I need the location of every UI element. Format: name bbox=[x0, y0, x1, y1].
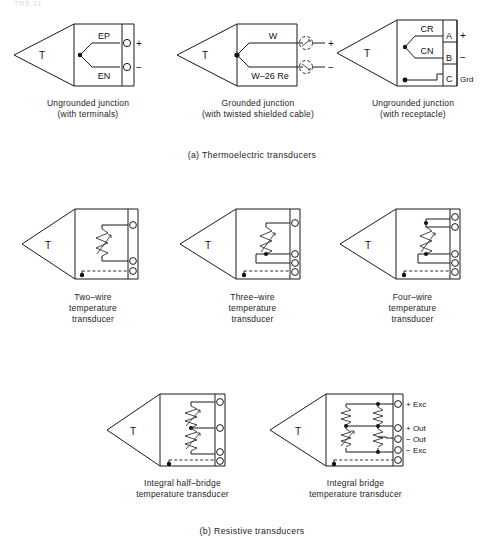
terminal-exc-positive[interactable] bbox=[395, 401, 402, 408]
section-caption-a: (a) Thermoelectric transducers bbox=[0, 150, 504, 160]
sensor-body-label: T bbox=[39, 50, 45, 61]
section-caption-b: (b) Resistive transducers bbox=[0, 526, 504, 536]
terminal-1[interactable] bbox=[130, 222, 137, 229]
top-tap-dot bbox=[424, 221, 428, 225]
terminal-label-exc-positive: + Exc bbox=[406, 400, 426, 409]
terminal-1[interactable] bbox=[452, 214, 459, 221]
terminal-2[interactable] bbox=[217, 425, 224, 432]
terminal-exc-negative[interactable] bbox=[395, 447, 402, 454]
terminal-3[interactable] bbox=[452, 251, 459, 258]
sign-positive: + bbox=[328, 38, 334, 49]
diagram-integral-half-bridge-temperature-transducer: T bbox=[105, 390, 260, 474]
terminal-4[interactable] bbox=[452, 260, 459, 267]
sensor-body-label: T bbox=[364, 48, 370, 59]
lead-label-w26re: W–26 Re bbox=[251, 71, 289, 81]
terminal-out-positive[interactable] bbox=[395, 425, 402, 432]
ground-dot bbox=[403, 78, 408, 83]
caption-grounded-junction-twisted-cable: Grounded junction (with twisted shielded… bbox=[163, 98, 353, 120]
terminal-ground[interactable] bbox=[395, 457, 402, 464]
pin-sign-negative: − bbox=[460, 52, 466, 63]
terminal-out-negative[interactable] bbox=[395, 436, 402, 443]
terminal-3[interactable] bbox=[292, 260, 299, 267]
pin-label-b: B bbox=[446, 53, 452, 63]
sign-positive: + bbox=[136, 38, 142, 49]
diagram-ungrounded-junction-receptacle: T CR CN A B C + − Grd bbox=[335, 14, 500, 96]
sensor-body-label: T bbox=[365, 240, 371, 251]
sign-negative: − bbox=[136, 62, 142, 73]
terminal-positive[interactable] bbox=[123, 39, 130, 46]
caption-ungrounded-junction-terminals: Ungrounded junction (with terminals) bbox=[8, 98, 168, 120]
diagram-grounded-junction-twisted-cable: T W W–26 Re + − bbox=[175, 18, 340, 93]
diagram-two-wire-temperature-transducer: T bbox=[20, 205, 170, 287]
caption-four-wire-temperature-transducer: Four–wire temperature transducer bbox=[335, 292, 490, 325]
terminal-label-out-negative: − Out bbox=[406, 435, 427, 444]
terminal-label-out-positive: + Out bbox=[406, 424, 427, 433]
lead-label-w: W bbox=[269, 31, 278, 41]
diagram-ungrounded-junction-terminals: T EP EN + − bbox=[12, 18, 172, 93]
pin-sign-ground: Grd bbox=[460, 75, 473, 84]
terminal-2[interactable] bbox=[130, 258, 137, 265]
figure-canvas: TR5.11 T EP EN + − Ungrounded junction (… bbox=[0, 0, 504, 546]
diagram-four-wire-temperature-transducer: T bbox=[338, 205, 493, 287]
terminal-ground[interactable] bbox=[130, 268, 137, 275]
sensor-body-label: T bbox=[202, 50, 208, 61]
sensor-body-label: T bbox=[130, 426, 136, 437]
caption-integral-bridge-temperature-transducer: Integral bridge temperature transducer bbox=[268, 478, 443, 500]
diagram-three-wire-temperature-transducer: T bbox=[178, 205, 333, 287]
terminal-3[interactable] bbox=[217, 449, 224, 456]
caption-ungrounded-junction-receptacle: Ungrounded junction (with receptacle) bbox=[328, 98, 498, 120]
caption-integral-half-bridge-temperature-transducer: Integral half–bridge temperature transdu… bbox=[90, 478, 275, 500]
pin-label-a: A bbox=[446, 31, 452, 41]
pin-sign-positive: + bbox=[460, 30, 466, 41]
caption-two-wire-temperature-transducer: Two–wire temperature transducer bbox=[18, 292, 168, 325]
caption-three-wire-temperature-transducer: Three–wire temperature transducer bbox=[175, 292, 330, 325]
sensor-body-label: T bbox=[205, 240, 211, 251]
diagram-integral-bridge-temperature-transducer: + Exc + Out − Out − Exc T bbox=[268, 390, 468, 474]
lead-label-cr: CR bbox=[421, 24, 434, 34]
terminal-ground[interactable] bbox=[217, 458, 224, 465]
terminal-1[interactable] bbox=[217, 399, 224, 406]
terminal-negative[interactable] bbox=[123, 63, 130, 70]
terminal-label-exc-negative: − Exc bbox=[406, 446, 426, 455]
sensor-body-label: T bbox=[45, 240, 51, 251]
terminal-ground[interactable] bbox=[292, 269, 299, 276]
lead-label-cn: CN bbox=[421, 46, 434, 56]
page-artifact-text: TR5.11 bbox=[14, 0, 42, 7]
terminal-1[interactable] bbox=[292, 220, 299, 227]
lead-label-ep: EP bbox=[98, 31, 110, 41]
lead-label-en: EN bbox=[98, 71, 111, 81]
sign-negative: − bbox=[328, 62, 334, 73]
terminal-2[interactable] bbox=[452, 224, 459, 231]
terminal-2[interactable] bbox=[292, 251, 299, 258]
sensor-body-label: T bbox=[295, 426, 301, 437]
terminal-ground[interactable] bbox=[452, 269, 459, 276]
pin-label-c: C bbox=[446, 74, 453, 84]
